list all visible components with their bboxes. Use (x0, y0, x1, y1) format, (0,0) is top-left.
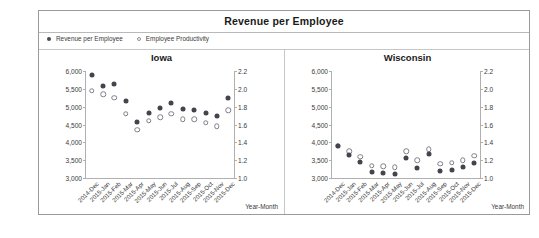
data-point-hollow-circle[interactable] (226, 107, 232, 113)
data-point-hollow-circle[interactable] (460, 157, 466, 163)
legend-item-label: Revenue per Employee (56, 35, 123, 42)
y-axis-right-tick-mark (234, 89, 237, 90)
data-point-filled-circle[interactable] (112, 81, 117, 86)
data-point-filled-circle[interactable] (158, 106, 163, 111)
y-axis-left-tick-label: 5,000 (65, 103, 82, 110)
charts-container: Iowa 3,0003,5004,0004,5005,0005,5006,000… (39, 50, 529, 214)
y-axis-right-tick-mark (480, 71, 483, 72)
data-point-hollow-circle[interactable] (369, 163, 375, 169)
y-axis-right-tick-mark (480, 89, 483, 90)
data-point-hollow-circle[interactable] (100, 91, 106, 97)
data-point-hollow-circle[interactable] (392, 165, 398, 171)
data-point-filled-circle[interactable] (460, 165, 465, 170)
y-axis-left-tick-label: 5,000 (311, 103, 328, 110)
data-point-filled-circle[interactable] (123, 98, 128, 103)
y-axis-left-tick-label: 6,000 (311, 68, 328, 75)
data-point-filled-circle[interactable] (180, 107, 185, 112)
data-point-filled-circle[interactable] (146, 110, 151, 115)
legend-item-revenue-per-employee[interactable]: Revenue per Employee (47, 35, 123, 42)
x-axis-title-iowa: Year-Month (245, 203, 278, 210)
y-axis-left-tick-mark (329, 89, 332, 90)
data-point-filled-circle[interactable] (426, 152, 431, 157)
filled-circle-icon (47, 37, 51, 41)
y-axis-right-tick-label: 2.0 (484, 85, 493, 92)
data-point-filled-circle[interactable] (472, 160, 477, 165)
y-axis-left-tick-label: 3,000 (65, 175, 82, 182)
data-point-hollow-circle[interactable] (89, 88, 95, 94)
data-point-hollow-circle[interactable] (380, 164, 386, 170)
y-axis-right-tick-mark (234, 125, 237, 126)
chart-title-wisconsin: Wisconsin (285, 52, 530, 63)
data-point-filled-circle[interactable] (438, 168, 443, 173)
data-point-filled-circle[interactable] (335, 143, 340, 148)
data-point-hollow-circle[interactable] (437, 161, 443, 167)
y-axis-right-tick-label: 1.8 (238, 103, 247, 110)
y-axis-right-tick-label: 1.6 (484, 121, 493, 128)
y-axis-left-tick-mark (83, 160, 86, 161)
data-point-filled-circle[interactable] (192, 107, 197, 112)
y-axis-left-tick-mark (83, 89, 86, 90)
plot-area-iowa[interactable]: 3,0003,5004,0004,5005,0005,5006,0001.01.… (85, 71, 235, 179)
y-axis-right-tick-mark (234, 178, 237, 179)
chart-panel-iowa: Iowa 3,0003,5004,0004,5005,0005,5006,000… (39, 50, 284, 214)
data-point-hollow-circle[interactable] (214, 124, 220, 130)
data-point-hollow-circle[interactable] (415, 157, 421, 163)
data-point-hollow-circle[interactable] (403, 149, 409, 155)
data-point-filled-circle[interactable] (347, 152, 352, 157)
y-axis-right-tick-mark (480, 107, 483, 108)
data-point-hollow-circle[interactable] (180, 116, 186, 122)
data-point-hollow-circle[interactable] (134, 127, 140, 133)
revenue-per-employee-panel: Revenue per Employee Revenue per Employe… (38, 10, 530, 215)
plot-area-wisconsin[interactable]: 3,0003,5004,0004,5005,0005,5006,0001.01.… (331, 71, 481, 179)
data-point-hollow-circle[interactable] (157, 115, 163, 121)
y-axis-left-tick-label: 4,000 (311, 139, 328, 146)
y-axis-right-tick-label: 1.4 (484, 139, 493, 146)
data-point-filled-circle[interactable] (415, 165, 420, 170)
screenshot-root: Revenue per Employee Revenue per Employe… (0, 0, 539, 238)
data-point-hollow-circle[interactable] (449, 160, 455, 166)
data-point-filled-circle[interactable] (392, 171, 397, 176)
y-axis-left-tick-mark (329, 125, 332, 126)
data-point-hollow-circle[interactable] (472, 153, 478, 159)
y-axis-left-tick-label: 6,000 (65, 68, 82, 75)
y-axis-right-tick-mark (234, 71, 237, 72)
y-axis-left-tick-label: 5,500 (311, 85, 328, 92)
data-point-hollow-circle[interactable] (358, 154, 364, 160)
data-point-filled-circle[interactable] (89, 73, 94, 78)
page-title: Revenue per Employee (39, 15, 529, 27)
y-axis-left-tick-mark (83, 107, 86, 108)
y-axis-right-tick-label: 2.2 (484, 68, 493, 75)
data-point-filled-circle[interactable] (449, 168, 454, 173)
y-axis-right-tick-mark (234, 142, 237, 143)
data-point-filled-circle[interactable] (358, 160, 363, 165)
y-axis-left-tick-mark (83, 142, 86, 143)
data-point-hollow-circle[interactable] (169, 111, 175, 117)
data-point-filled-circle[interactable] (226, 96, 231, 101)
data-point-hollow-circle[interactable] (123, 111, 129, 117)
data-point-filled-circle[interactable] (381, 170, 386, 175)
y-axis-left-tick-mark (83, 71, 86, 72)
y-axis-right-tick-label: 1.4 (238, 139, 247, 146)
data-point-filled-circle[interactable] (101, 83, 106, 88)
data-point-filled-circle[interactable] (214, 113, 219, 118)
y-axis-left-tick-mark (329, 71, 332, 72)
y-axis-right-tick-mark (480, 125, 483, 126)
data-point-hollow-circle[interactable] (112, 95, 118, 101)
data-point-hollow-circle[interactable] (191, 116, 197, 122)
y-axis-left-tick-label: 3,500 (65, 157, 82, 164)
data-point-filled-circle[interactable] (404, 156, 409, 161)
data-point-filled-circle[interactable] (203, 110, 208, 115)
y-axis-right-tick-mark (234, 160, 237, 161)
legend-item-employee-productivity[interactable]: Employee Productivity (137, 35, 209, 42)
y-axis-right-tick-label: 1.0 (484, 175, 493, 182)
title-divider (39, 32, 529, 33)
data-point-filled-circle[interactable] (169, 101, 174, 106)
y-axis-left-tick-mark (329, 107, 332, 108)
chart-panel-wisconsin: Wisconsin 3,0003,5004,0004,5005,0005,500… (285, 50, 530, 214)
y-axis-right-tick-mark (480, 142, 483, 143)
data-point-hollow-circle[interactable] (203, 120, 209, 126)
data-point-hollow-circle[interactable] (146, 118, 152, 124)
data-point-filled-circle[interactable] (369, 169, 374, 174)
y-axis-right-tick-mark (234, 107, 237, 108)
data-point-filled-circle[interactable] (135, 120, 140, 125)
